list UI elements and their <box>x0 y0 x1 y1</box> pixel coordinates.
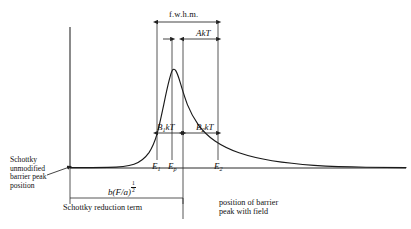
e2-label: E2 <box>214 161 223 173</box>
bfa-exponent-denominator: 2 <box>131 188 136 194</box>
b2kt-tail: kT <box>205 122 214 132</box>
position-of-barrier-peak-label: position of barrier peak with field <box>219 198 278 217</box>
e1-label: E1 <box>152 161 161 173</box>
ep-label: Ep <box>168 161 177 173</box>
schottky-pos-line-4: position <box>10 182 46 191</box>
distribution-curve-group <box>70 69 406 167</box>
e1-subscript: 1 <box>158 166 161 172</box>
e2-subscript: 2 <box>220 166 223 172</box>
schottky-callout-arrow <box>47 168 68 176</box>
peak-field-line-1: position of barrier <box>219 198 278 207</box>
marker-lines <box>70 22 218 198</box>
b2kt-label: B2kT <box>196 122 214 134</box>
schottky-peak-position-label: Schottky unmodified barrier peak positio… <box>10 156 46 191</box>
axes <box>70 27 406 168</box>
b1kt-tail: kT <box>166 122 175 132</box>
bfa-exponent: 12 <box>131 181 136 193</box>
distribution-curve <box>70 69 406 167</box>
schottky-callout <box>47 168 68 176</box>
peak-field-line-2: peak with field <box>219 207 278 216</box>
figure-canvas: f.w.h.m. AkT B1kT B2kT E1 Ep E2 Schottky… <box>0 0 411 229</box>
fwhm-label: f.w.h.m. <box>169 10 198 20</box>
bfa-formula-label: b(F/a)12 <box>108 181 136 197</box>
b1kt-label: B1kT <box>157 122 175 134</box>
dimension-arrows <box>158 22 217 133</box>
ep-subscript: p <box>174 166 177 172</box>
akt-label: AkT <box>196 28 211 38</box>
bfa-expression: b(F/a) <box>108 187 131 197</box>
schottky-reduction-term-label: Schottky reduction term <box>63 203 142 212</box>
